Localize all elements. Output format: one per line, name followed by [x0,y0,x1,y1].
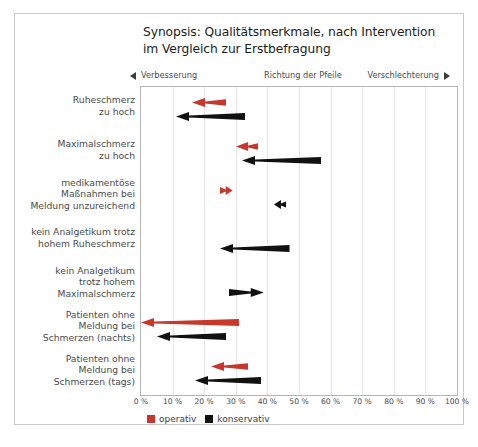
category-label-line: Maximalschmerz [27,138,135,150]
category-label-line: trotz hohem [27,276,135,288]
category-label-line: kein Analgetikum trotz [27,226,135,238]
arrow-shape [236,141,258,150]
x-tick-label: 80 % [384,397,403,406]
grid-line [299,87,300,395]
x-tick-label: 100 % [445,397,469,406]
category-label: kein Analgetikumtrotz hohemMaximalschmer… [27,265,135,300]
x-tick-label: 20 % [195,397,214,406]
category-label: Ruheschmerzzu hoch [27,94,135,117]
chart-legend: operativkonservativ [147,414,270,424]
arrow-shape [220,243,290,252]
legend-label: konservativ [217,414,269,424]
grid-line [173,87,174,395]
category-label-line: hohem Ruheschmerz [27,238,135,250]
category-label-line: kein Analgetikum [27,265,135,277]
x-tick-label: 50 % [289,397,308,406]
direction-right-label: Verschlechterung [367,70,439,80]
legend-label: operativ [159,414,196,424]
arrow-shape [195,375,261,384]
x-tick-label: 10 % [163,397,182,406]
x-tick-label: 60 % [321,397,340,406]
arrow-shape [242,155,321,164]
x-axis-ticks: 0 %10 %20 %30 %40 %50 %60 %70 %80 %90 %1… [140,397,458,411]
category-label-line: Schmerzen (tags) [27,376,135,388]
grid-line [331,87,332,395]
triangle-left-icon [130,72,136,80]
direction-right: Verschlechterung [367,70,439,80]
grid-line [425,87,426,395]
arrow-shape [176,111,246,120]
category-label-line: Maximalschmerz [27,288,135,300]
direction-left-label: Verbesserung [141,70,197,80]
grid-line [362,87,363,395]
arrow-shape [141,317,239,326]
category-label-line: zu hoch [27,106,135,118]
x-tick-label: 0 % [134,397,148,406]
category-label: Patienten ohneMeldung beiSchmerzen (tags… [27,353,135,388]
category-label-line: Meldung bei [27,364,135,376]
category-label: Maximalschmerzzu hoch [27,138,135,161]
plot-area [140,86,458,396]
x-tick-label: 70 % [353,397,372,406]
category-label-line: Patienten ohne [27,309,135,321]
legend-item[interactable]: konservativ [205,414,269,424]
arrow-shape [220,185,233,194]
grid-line [394,87,395,395]
chart-figure: Synopsis: Qualitätsmerkmale, nach Interv… [14,13,464,425]
category-label-line: Patienten ohne [27,353,135,365]
direction-band: Verbesserung Richtung der Pfeile Verschl… [127,69,453,85]
arrow-shape [229,287,264,296]
x-tick-label: 90 % [416,397,435,406]
arrow-shape [274,199,287,208]
category-label-line: medikamentöse [27,177,135,189]
arrow-shape [211,361,249,370]
grid-line [204,87,205,395]
legend-item[interactable]: operativ [147,414,196,424]
triangle-right-icon [444,72,450,80]
category-axis-labels: Ruheschmerzzu hochMaximalschmerzzu hochm… [27,86,135,396]
category-label: kein Analgetikum trotzhohem Ruheschmerz [27,226,135,249]
category-label: medikamentöseMaßnahmen beiMeldung unzure… [27,177,135,212]
direction-center-label: Richtung der Pfeile [264,70,342,80]
category-label-line: zu hoch [27,150,135,162]
legend-swatch [205,415,213,423]
chart-title-line-1: Synopsis: Qualitätsmerkmale, nach Interv… [143,24,448,41]
category-label: Patienten ohneMeldung beiSchmerzen (nach… [27,309,135,344]
x-tick-label: 30 % [226,397,245,406]
legend-swatch [147,415,155,423]
category-label-line: Ruheschmerz [27,94,135,106]
category-label-line: Schmerzen (nachts) [27,332,135,344]
arrow-shape [192,97,227,106]
category-label-line: Meldung unzureichend [27,200,135,212]
x-tick-label: 40 % [258,397,277,406]
chart-title: Synopsis: Qualitätsmerkmale, nach Interv… [143,24,448,58]
chart-title-line-2: im Vergleich zur Erstbefragung [143,41,448,58]
category-label-line: Meldung bei [27,320,135,332]
arrow-shape [157,331,227,340]
direction-left: Verbesserung [141,70,197,80]
category-label-line: Maßnahmen bei [27,188,135,200]
